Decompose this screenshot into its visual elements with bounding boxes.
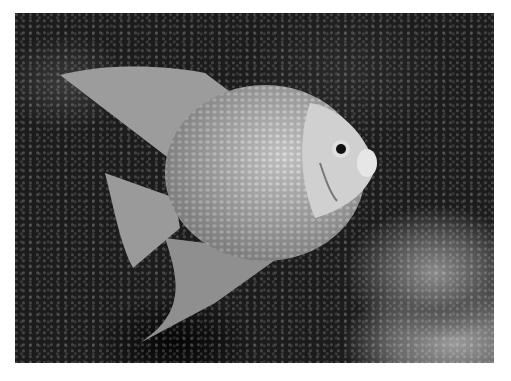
angelfish-photo [15, 13, 494, 363]
angelfish-illustration [15, 13, 494, 363]
